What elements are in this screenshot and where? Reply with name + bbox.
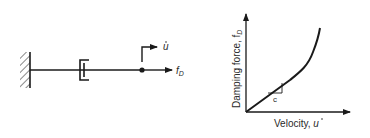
x-axis-label: Velocity, u	[274, 118, 323, 129]
damping-curve	[246, 28, 320, 112]
slope-label: c	[273, 95, 277, 104]
fixed-wall	[20, 52, 30, 88]
velocity-label: u	[163, 41, 169, 52]
damper-schematic: fD u	[20, 41, 184, 88]
wall-hatching	[20, 52, 30, 88]
force-velocity-chart: c Damping force, fD Velocity, u	[231, 14, 350, 129]
y-axis-label: Damping force, fD	[231, 30, 243, 108]
damper-figure: fD u c Damping force, fD Velocity, u	[0, 0, 370, 138]
force-label: fD	[176, 65, 184, 77]
svg-text:Velocity, u: Velocity, u	[274, 118, 319, 129]
velocity-arrow-icon	[142, 47, 157, 62]
